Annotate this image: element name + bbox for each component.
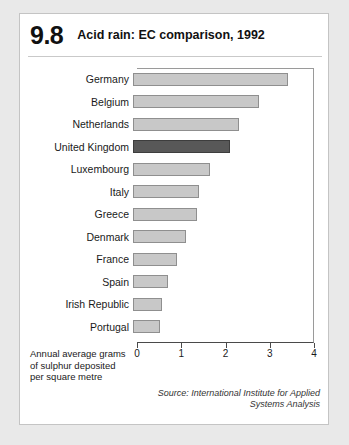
bar-rows: GermanyBelgiumNetherlandsUnited KingdomL…	[20, 68, 330, 338]
bar-row: Luxembourg	[20, 158, 330, 181]
bar-track	[133, 226, 310, 249]
bar-track	[133, 68, 310, 91]
bar-track	[133, 293, 310, 316]
axis-caption: Annual average grams of sulphur deposite…	[30, 348, 140, 383]
x-axis-tick-label: 1	[178, 349, 184, 359]
bar-portugal	[133, 320, 160, 333]
bar-track	[133, 113, 310, 136]
bar-italy	[133, 185, 199, 198]
bar-netherlands	[133, 118, 239, 131]
bar-france	[133, 253, 177, 266]
bar-row: France	[20, 248, 330, 271]
figure-page: 9.8 Acid rain: EC comparison, 1992 Germa…	[0, 0, 349, 445]
axis-caption-line-3: per square metre	[30, 371, 140, 383]
source-line-2: Systems Analysis	[90, 399, 320, 410]
bar-row: Denmark	[20, 226, 330, 249]
bar-category-label: Greece	[20, 209, 133, 220]
bar-category-label: France	[20, 254, 133, 265]
bar-row: Spain	[20, 271, 330, 294]
bar-belgium	[133, 95, 259, 108]
bar-greece	[133, 208, 197, 221]
figure-card: 9.8 Acid rain: EC comparison, 1992 Germa…	[19, 13, 329, 425]
figure-header: 9.8 Acid rain: EC comparison, 1992	[20, 14, 328, 56]
bar-category-label: Denmark	[20, 232, 133, 243]
bar-track	[133, 91, 310, 114]
bar-germany	[133, 73, 288, 86]
axis-caption-line-2: of sulphur deposited	[30, 360, 140, 372]
bar-category-label: Netherlands	[20, 119, 133, 130]
bar-row: Netherlands	[20, 113, 330, 136]
bar-chart: GermanyBelgiumNetherlandsUnited KingdomL…	[20, 60, 330, 380]
page-title: Acid rain: EC comparison, 1992	[77, 29, 265, 42]
x-axis-tick-label: 3	[267, 349, 273, 359]
bar-row: Greece	[20, 203, 330, 226]
bar-track	[133, 248, 310, 271]
bar-track	[133, 271, 310, 294]
bar-track	[133, 203, 310, 226]
axis-caption-line-1: Annual average grams	[30, 348, 140, 360]
bar-category-label: Luxembourg	[20, 164, 133, 175]
bar-row: United Kingdom	[20, 136, 330, 159]
bar-irish-republic	[133, 298, 162, 311]
figure-number: 9.8	[30, 23, 63, 48]
source-attribution: Source: International Institute for Appl…	[90, 388, 320, 410]
bar-row: Belgium	[20, 91, 330, 114]
header-divider	[28, 56, 322, 57]
bar-category-label: Irish Republic	[20, 299, 133, 310]
bar-track	[133, 181, 310, 204]
bar-category-label: Spain	[20, 277, 133, 288]
bar-row: Germany	[20, 68, 330, 91]
bar-category-label: Belgium	[20, 97, 133, 108]
bar-united-kingdom	[133, 140, 230, 153]
bar-row: Irish Republic	[20, 293, 330, 316]
bar-denmark	[133, 230, 186, 243]
bar-spain	[133, 275, 168, 288]
x-axis: 01234	[137, 343, 314, 365]
bar-row: Portugal	[20, 316, 330, 339]
source-line-1: Source: International Institute for Appl…	[90, 388, 320, 399]
bar-category-label: Germany	[20, 74, 133, 85]
x-axis-tick-label: 4	[311, 349, 317, 359]
bar-luxembourg	[133, 163, 210, 176]
bar-track	[133, 158, 310, 181]
bar-row: Italy	[20, 181, 330, 204]
x-axis-tick-label: 2	[223, 349, 229, 359]
bar-category-label: Portugal	[20, 322, 133, 333]
bar-category-label: United Kingdom	[20, 142, 133, 153]
bar-track	[133, 136, 310, 159]
bar-category-label: Italy	[20, 187, 133, 198]
bar-track	[133, 316, 310, 339]
